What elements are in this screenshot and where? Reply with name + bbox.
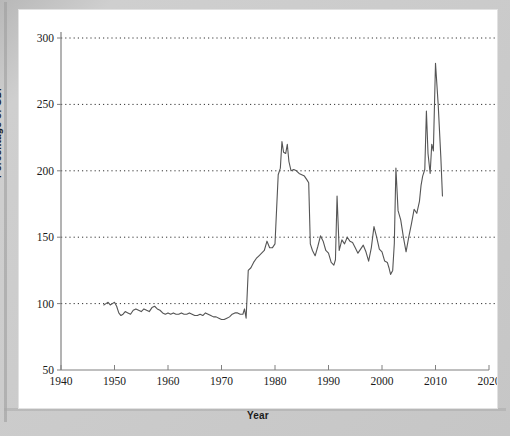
figure-page: 194019501960197019801990200020102020 501… <box>19 10 497 408</box>
x-tick-label-1960: 1960 <box>157 375 180 387</box>
x-tick-label-2020: 2020 <box>478 375 498 387</box>
axis-lines <box>61 32 489 370</box>
x-tick-label-1950: 1950 <box>103 375 126 387</box>
y-tick-label-200: 200 <box>37 165 55 177</box>
x-tick-label-1940: 1940 <box>50 375 73 387</box>
x-tick-label-1990: 1990 <box>317 375 340 387</box>
x-tick-label-2010: 2010 <box>424 375 447 387</box>
y-tick-labels: 50100150200250300 <box>37 32 55 376</box>
y-tick-label-250: 250 <box>37 98 55 110</box>
y-tick-label-100: 100 <box>37 298 55 310</box>
y-tick-label-300: 300 <box>37 32 55 44</box>
y-tick-label-50: 50 <box>43 364 55 376</box>
x-tick-label-1980: 1980 <box>264 375 287 387</box>
screenshot-root: 194019501960197019801990200020102020 501… <box>0 0 510 436</box>
series-line-0 <box>104 63 443 319</box>
data-series <box>104 63 443 319</box>
y-axis-title: Percentage of GDP <box>0 84 3 178</box>
x-tick-marks <box>61 365 489 370</box>
x-tick-labels: 194019501960197019801990200020102020 <box>50 375 498 387</box>
x-tick-label-2000: 2000 <box>371 375 394 387</box>
x-tick-label-1970: 1970 <box>210 375 233 387</box>
y-tick-label-150: 150 <box>37 231 55 243</box>
x-axis-title: Year <box>19 410 497 421</box>
frame-bevel-left <box>4 2 7 422</box>
line-chart: 194019501960197019801990200020102020 501… <box>19 10 497 408</box>
